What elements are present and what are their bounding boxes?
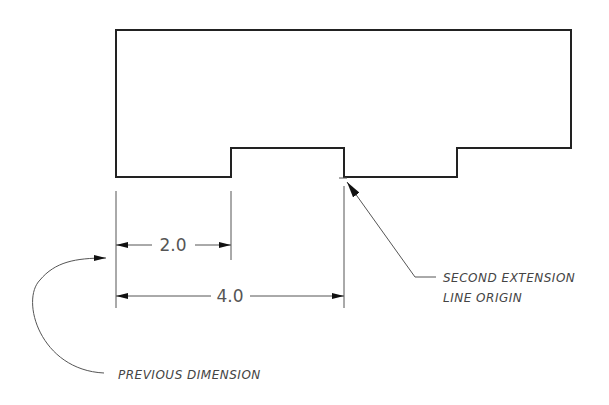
dimension-2: 2.0 [116,235,231,255]
note-second-extension-2: LINE ORIGIN [443,291,522,305]
note-previous-dimension: PREVIOUS DIMENSION [118,368,261,382]
dimension-4: 4.0 [116,286,344,306]
part-outline [116,30,571,177]
drawing-canvas: 2.0 4.0 SECOND EXTENSION LINE ORIGIN PRE… [0,0,609,405]
dimension-4-label: 4.0 [216,286,243,306]
leader-second-extension: SECOND EXTENSION LINE ORIGIN [347,182,575,305]
leader-previous-dimension: PREVIOUS DIMENSION [33,258,261,382]
note-second-extension-1: SECOND EXTENSION [443,271,575,285]
dimension-2-label: 2.0 [159,235,186,255]
